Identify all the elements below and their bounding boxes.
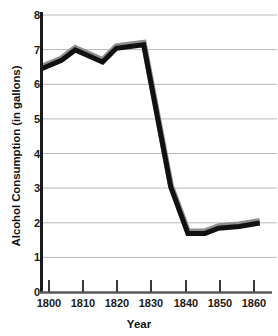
data-series-alcohol-consumption	[41, 43, 260, 234]
alcohol-consumption-line-chart: Alcohol Consumption (in gallons) 8 7 6 5…	[0, 0, 278, 336]
plot-area	[0, 0, 278, 336]
series-line	[41, 45, 260, 234]
x-axis-tick-marks	[49, 280, 254, 292]
x-axis-title: Year	[0, 318, 278, 330]
x-tick-label: 1860	[232, 297, 276, 309]
